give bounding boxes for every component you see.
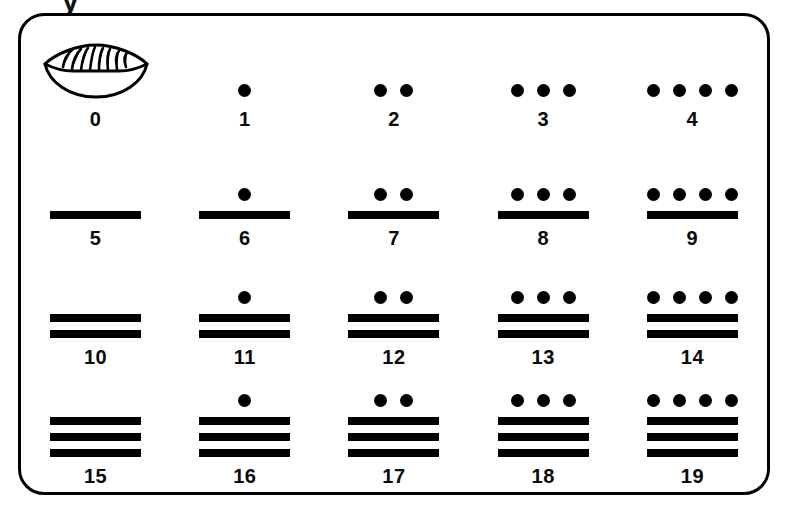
unit-dot-icon: [537, 394, 550, 407]
unit-dot-icon: [238, 291, 251, 304]
numeral-cell-9: 9: [618, 135, 767, 254]
dot-row: [374, 80, 413, 100]
numeral-cell-13: 13: [469, 254, 618, 373]
unit-dot-icon: [400, 84, 413, 97]
bar-stack: [50, 314, 141, 338]
numeral-glyph: [50, 383, 141, 457]
numeral-label: 19: [681, 466, 704, 486]
numeral-glyph: [647, 26, 738, 100]
numeral-cell-4: 4: [618, 16, 767, 135]
numeral-label: 11: [234, 347, 256, 367]
dot-row: [374, 184, 413, 204]
shell-icon: [41, 42, 151, 100]
unit-dot-icon: [238, 188, 251, 201]
numeral-cell-6: 6: [170, 135, 319, 254]
five-bar-icon: [498, 433, 589, 441]
bar-stack: [498, 314, 589, 338]
numeral-glyph: [511, 26, 576, 100]
numeral-glyph: [348, 383, 439, 457]
numeral-cell-11: 11: [170, 254, 319, 373]
five-bar-icon: [498, 449, 589, 457]
bar-stack: [50, 417, 141, 457]
five-bar-icon: [647, 211, 738, 219]
numeral-glyph: [647, 145, 738, 219]
unit-dot-icon: [725, 188, 738, 201]
five-bar-icon: [647, 449, 738, 457]
numeral-label: 17: [382, 466, 405, 486]
five-bar-icon: [199, 433, 290, 441]
numeral-label: 12: [382, 347, 405, 367]
bar-stack: [199, 314, 290, 338]
dot-row: [374, 390, 413, 410]
numeral-cell-14: 14: [618, 254, 767, 373]
unit-dot-icon: [511, 84, 524, 97]
five-bar-icon: [199, 330, 290, 338]
unit-dot-icon: [647, 394, 660, 407]
unit-dot-icon: [537, 291, 550, 304]
numeral-chart-frame: 012345678910111213141516171819: [18, 13, 770, 495]
five-bar-icon: [498, 330, 589, 338]
unit-dot-icon: [400, 291, 413, 304]
five-bar-icon: [199, 449, 290, 457]
unit-dot-icon: [563, 291, 576, 304]
numeral-cell-7: 7: [319, 135, 468, 254]
five-bar-icon: [498, 314, 589, 322]
unit-dot-icon: [238, 394, 251, 407]
unit-dot-icon: [699, 291, 712, 304]
numeral-label: 0: [90, 109, 102, 129]
unit-dot-icon: [673, 291, 686, 304]
unit-dot-icon: [699, 188, 712, 201]
bar-stack: [348, 314, 439, 338]
numeral-label: 1: [239, 109, 251, 129]
five-bar-icon: [50, 417, 141, 425]
five-bar-icon: [348, 433, 439, 441]
numeral-cell-17: 17: [319, 373, 468, 492]
numeral-glyph: [374, 26, 413, 100]
bar-stack: [199, 417, 290, 457]
dot-row: [511, 390, 576, 410]
numeral-label: 7: [388, 228, 400, 248]
five-bar-icon: [50, 449, 141, 457]
unit-dot-icon: [238, 84, 251, 97]
five-bar-icon: [647, 417, 738, 425]
numeral-label: 10: [84, 347, 107, 367]
numeral-label: 14: [681, 347, 704, 367]
dot-row: [647, 184, 738, 204]
dot-row: [238, 287, 251, 307]
numeral-cell-5: 5: [21, 135, 170, 254]
unit-dot-icon: [374, 84, 387, 97]
numeral-cell-15: 15: [21, 373, 170, 492]
five-bar-icon: [498, 417, 589, 425]
unit-dot-icon: [647, 188, 660, 201]
numeral-cell-3: 3: [469, 16, 618, 135]
numeral-label: 4: [687, 109, 699, 129]
numeral-glyph: [348, 264, 439, 338]
five-bar-icon: [50, 211, 141, 219]
dot-row: [238, 390, 251, 410]
bar-stack: [498, 417, 589, 457]
unit-dot-icon: [374, 188, 387, 201]
unit-dot-icon: [400, 188, 413, 201]
bar-stack: [647, 211, 738, 219]
numeral-glyph: [199, 264, 290, 338]
numeral-glyph: [498, 383, 589, 457]
unit-dot-icon: [537, 84, 550, 97]
five-bar-icon: [199, 211, 290, 219]
five-bar-icon: [348, 211, 439, 219]
numeral-label: 16: [233, 466, 256, 486]
unit-dot-icon: [647, 291, 660, 304]
numeral-glyph: [50, 264, 141, 338]
five-bar-icon: [348, 314, 439, 322]
unit-dot-icon: [725, 394, 738, 407]
numeral-label: 6: [239, 228, 251, 248]
dot-row: [511, 80, 576, 100]
five-bar-icon: [50, 433, 141, 441]
numeral-cell-2: 2: [319, 16, 468, 135]
numeral-glyph: [498, 264, 589, 338]
dot-row: [511, 184, 576, 204]
numeral-label: 8: [537, 228, 549, 248]
numeral-cell-18: 18: [469, 373, 618, 492]
unit-dot-icon: [725, 84, 738, 97]
bar-stack: [199, 211, 290, 219]
dot-row: [238, 80, 251, 100]
